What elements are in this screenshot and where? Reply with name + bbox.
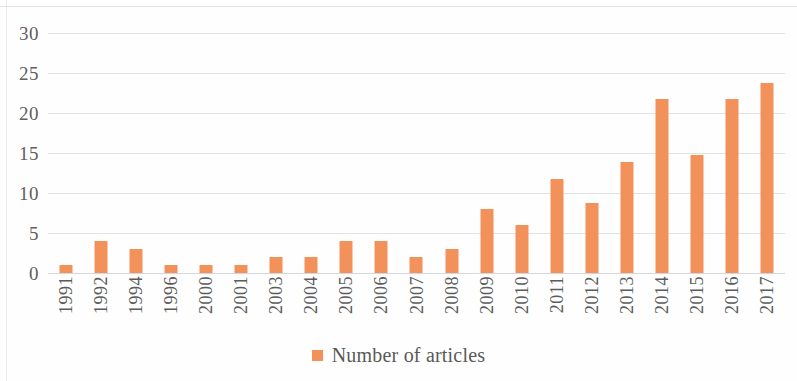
bar [129, 249, 142, 273]
bar [691, 155, 704, 273]
bar-slot [680, 33, 715, 273]
bar [550, 179, 563, 273]
bar [375, 241, 388, 273]
y-axis-tick-label: 0 [29, 264, 39, 283]
x-axis-tick-label: 2009 [478, 276, 496, 314]
bar [410, 257, 423, 273]
y-axis-tick-label: 5 [29, 224, 39, 243]
bar-slot [153, 33, 188, 273]
bar-slot [715, 33, 750, 273]
x-axis: 1991199219941996200020012003200420052006… [48, 276, 785, 338]
x-axis-tick-label: 2008 [443, 276, 461, 314]
bar [445, 249, 458, 273]
x-axis-tick-label: 1991 [57, 276, 75, 314]
bar-slot [610, 33, 645, 273]
bar-series-number-of-articles [48, 33, 785, 273]
chart-legend: Number of articles [0, 344, 797, 367]
x-axis-tick-label: 2015 [688, 276, 706, 314]
bar-slot [329, 33, 364, 273]
x-axis-tick-label: 2017 [758, 276, 776, 314]
y-axis: 051015202530 [0, 0, 48, 273]
x-axis-tick-label: 1992 [92, 276, 110, 314]
bar-chart-figure: 051015202530 199119921994199620002001200… [0, 0, 797, 381]
bar-slot [645, 33, 680, 273]
square-marker-icon [312, 350, 323, 361]
x-axis-tick-label: 2003 [267, 276, 285, 314]
bar [761, 83, 774, 273]
bar [515, 225, 528, 273]
y-axis-tick-label: 20 [19, 104, 39, 123]
x-axis-tick-label: 2011 [548, 276, 566, 313]
x-axis-tick-label: 2004 [302, 276, 320, 314]
bar-slot [539, 33, 574, 273]
bar [235, 265, 248, 273]
bar-slot [504, 33, 539, 273]
x-axis-tick-label: 2001 [232, 276, 250, 314]
x-axis-tick-label: 2005 [337, 276, 355, 314]
bar-slot [223, 33, 258, 273]
bar [59, 265, 72, 273]
x-axis-tick-label: 1994 [127, 276, 145, 314]
bar [340, 241, 353, 273]
bar-slot [48, 33, 83, 273]
x-axis-tick-label: 2006 [372, 276, 390, 314]
gridline [48, 273, 785, 274]
x-axis-tick-label: 2013 [618, 276, 636, 314]
bar [199, 265, 212, 273]
bar [480, 209, 493, 273]
x-axis-tick-label: 2000 [197, 276, 215, 314]
x-axis-tick-label: 2012 [583, 276, 601, 314]
bar-slot [188, 33, 223, 273]
y-axis-tick-label: 15 [19, 144, 39, 163]
x-axis-tick-label: 2010 [513, 276, 531, 314]
bar-slot [434, 33, 469, 273]
x-axis-tick-label: 2014 [653, 276, 671, 314]
bar-slot [574, 33, 609, 273]
bar-slot [118, 33, 153, 273]
x-axis-tick-label: 2007 [408, 276, 426, 314]
bar [164, 265, 177, 273]
bar-slot [469, 33, 504, 273]
bar [305, 257, 318, 273]
legend-item-label: Number of articles [332, 344, 486, 367]
bar-slot [83, 33, 118, 273]
bar [656, 99, 669, 273]
bar-slot [294, 33, 329, 273]
bar [585, 203, 598, 273]
y-axis-tick-label: 30 [19, 24, 39, 43]
bar [94, 241, 107, 273]
bar-slot [259, 33, 294, 273]
bar [270, 257, 283, 273]
x-axis-tick-label: 1996 [162, 276, 180, 314]
bar-slot [750, 33, 785, 273]
y-axis-tick-label: 10 [19, 184, 39, 203]
bar [726, 99, 739, 273]
y-axis-tick-label: 25 [19, 64, 39, 83]
bar-slot [364, 33, 399, 273]
x-axis-tick-label: 2016 [723, 276, 741, 314]
scan-edge-top [0, 6, 797, 7]
bar-slot [399, 33, 434, 273]
bar [621, 162, 634, 273]
